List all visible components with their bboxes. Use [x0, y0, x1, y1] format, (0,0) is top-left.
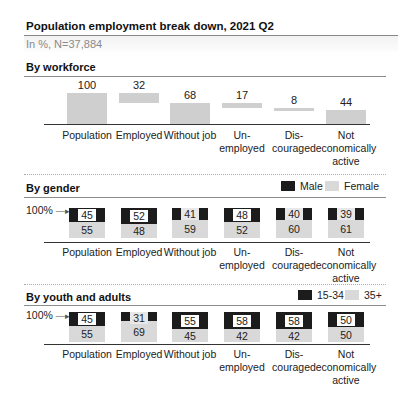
- section-rule-youth: [24, 305, 386, 306]
- segment-value-label: 55: [78, 328, 96, 340]
- category-label-line: economically: [313, 259, 379, 272]
- bar-value-label: 8: [274, 94, 314, 106]
- category-label-line: Not: [313, 246, 379, 259]
- segment-value-label: 42: [285, 330, 303, 342]
- workforce-axis: [44, 124, 370, 125]
- legend-female: Female: [325, 180, 379, 192]
- segment-value-label: 41: [181, 208, 199, 220]
- bar-value-label: 68: [170, 89, 210, 101]
- segment-value-label: 45: [78, 209, 96, 221]
- category-label-line: Not: [313, 129, 379, 142]
- stacked-bar: 5842: [276, 312, 312, 342]
- segment-value-label: 48: [130, 225, 148, 237]
- category-label-line: active: [313, 155, 379, 168]
- bar-value-label: 32: [119, 79, 159, 91]
- legend-label: 15-34: [317, 289, 344, 301]
- section-heading-gender: By gender: [26, 182, 80, 194]
- segment-value-label: 50: [337, 329, 355, 341]
- legend-swatch-light: [345, 290, 359, 300]
- axis-marker-label: 100%: [26, 309, 53, 321]
- section-separator: [24, 284, 386, 285]
- arrow-right-icon: —▸: [56, 206, 70, 216]
- segment-value-label: 48: [233, 209, 251, 221]
- segment-value-label: 59: [181, 223, 199, 235]
- bar-value-label: 17: [222, 89, 262, 101]
- segment-value-label: 45: [181, 330, 199, 342]
- section-heading-youth: By youth and adults: [26, 291, 131, 303]
- legend-swatch-light: [325, 181, 339, 191]
- workforce-bar: [119, 93, 159, 103]
- stacked-bar: 5248: [121, 208, 157, 238]
- stacked-bar: 4555: [69, 312, 105, 342]
- legend-35-plus: 35+: [345, 289, 382, 301]
- axis-marker-100: 100% —▸: [26, 309, 70, 321]
- legend-male: Male: [281, 180, 323, 192]
- workforce-bar: [326, 110, 366, 124]
- segment-value-label: 55: [181, 315, 199, 327]
- segment-value-label: 55: [78, 224, 96, 236]
- workforce-bar: [222, 103, 262, 108]
- segment-value-label: 50: [337, 314, 355, 326]
- legend-label: 35+: [364, 289, 382, 301]
- segment-value-label: 58: [233, 315, 251, 327]
- stacked-bar: 5050: [328, 312, 364, 342]
- section-separator: [24, 174, 386, 175]
- axis-marker-100: 100% —▸: [26, 204, 70, 216]
- category-label: Noteconomicallyactive: [313, 129, 379, 168]
- category-label-line: Not: [313, 348, 379, 361]
- segment-value-label: 52: [130, 210, 148, 222]
- category-label: Noteconomicallyactive: [313, 348, 379, 387]
- segment-value-label: 40: [285, 208, 303, 220]
- stacked-bar: 4060: [276, 208, 312, 238]
- stacked-bar: 3961: [328, 208, 364, 238]
- youth-axis: [44, 344, 370, 345]
- section-rule-gender: [24, 197, 386, 198]
- stacked-bar: 4555: [69, 208, 105, 238]
- segment-value-label: 58: [285, 315, 303, 327]
- segment-value-label: 69: [130, 326, 148, 338]
- gender-axis: [44, 242, 370, 243]
- legend-label: Female: [344, 180, 379, 192]
- segment-value-label: 39: [337, 208, 355, 220]
- workforce-bar: [67, 93, 107, 124]
- axis-marker-label: 100%: [26, 204, 53, 216]
- workforce-bar: [274, 108, 314, 110]
- stacked-bar: 4852: [224, 208, 260, 238]
- category-label-line: active: [313, 374, 379, 387]
- category-label-line: economically: [313, 361, 379, 374]
- legend-label: Male: [300, 180, 323, 192]
- legend-swatch-dark: [281, 181, 295, 191]
- segment-value-label: 52: [233, 224, 251, 236]
- segment-value-label: 31: [130, 312, 148, 324]
- stacked-bar: 4159: [172, 208, 208, 238]
- segment-value-label: 42: [233, 330, 251, 342]
- segment-value-label: 60: [285, 223, 303, 235]
- legend-15-34: 15-34: [298, 289, 344, 301]
- stacked-bar: 3169: [121, 312, 157, 342]
- stacked-bar: 5842: [224, 312, 260, 342]
- category-label-line: economically: [313, 142, 379, 155]
- category-label: Noteconomicallyactive: [313, 246, 379, 285]
- legend-swatch-dark: [298, 290, 312, 300]
- bar-value-label: 100: [67, 79, 107, 91]
- stacked-bar: 5545: [172, 312, 208, 342]
- segment-value-label: 61: [337, 223, 355, 235]
- arrow-right-icon: —▸: [56, 311, 70, 321]
- bar-value-label: 44: [326, 96, 366, 108]
- segment-value-label: 45: [78, 313, 96, 325]
- workforce-bar: [170, 103, 210, 124]
